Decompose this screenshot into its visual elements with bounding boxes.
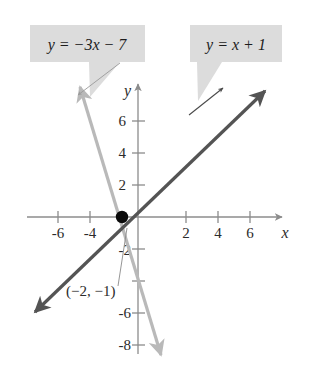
- callout-right-pointer: [189, 88, 223, 115]
- graph-figure: -6 -4 2 4 6 6 4 2 -2 -6 -8 y x (−2, −1): [0, 0, 309, 371]
- callout-right-tail: [197, 62, 222, 101]
- x-tick-label-4: 4: [214, 225, 222, 241]
- x-tick-label-minus4: -4: [84, 225, 97, 241]
- x-tick-label-6: 6: [246, 225, 254, 241]
- y-axis-label: y: [122, 82, 132, 100]
- x-tick-label-2: 2: [182, 225, 190, 241]
- y-tick-label-2: 2: [119, 177, 127, 193]
- y-tick-label-6: 6: [119, 113, 127, 129]
- x-tick-label-minus6: -6: [52, 225, 65, 241]
- intersection-point-label: (−2, −1): [66, 283, 115, 300]
- y-tick-label-minus8: -8: [119, 337, 132, 353]
- x-axis-label: x: [280, 224, 288, 241]
- callout-right-group: y = x + 1: [189, 25, 282, 115]
- axes-group: [27, 84, 282, 354]
- callout-left-tail: [89, 62, 120, 97]
- callout-right-label: y = x + 1: [204, 36, 266, 54]
- callout-left-label: y = −3x − 7: [46, 36, 128, 54]
- y-tick-label-minus6: -6: [119, 305, 132, 321]
- x-tick-labels: -6 -4 2 4 6: [52, 225, 255, 241]
- intersection-point-marker: [116, 211, 128, 223]
- coordinate-plane-svg: -6 -4 2 4 6 6 4 2 -2 -6 -8 y x (−2, −1): [0, 0, 309, 371]
- y-tick-label-4: 4: [119, 145, 127, 161]
- line-y-equals-x-plus-1: [35, 91, 265, 312]
